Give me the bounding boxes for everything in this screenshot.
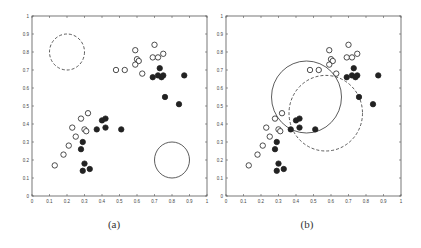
y-tick-label: 0.5 (23, 104, 30, 109)
filled-point (162, 94, 167, 99)
open-point (133, 62, 138, 67)
filled-point (355, 73, 360, 78)
open-point (264, 125, 269, 130)
y-tick-label: 0.5 (217, 104, 224, 109)
filled-point (161, 73, 166, 78)
filled-point (281, 166, 286, 171)
x-tick-label: 0.5 (310, 199, 317, 204)
open-point (327, 62, 332, 67)
y-tick-label: 0.2 (217, 158, 224, 163)
filled-point (103, 125, 108, 130)
open-point (355, 51, 360, 56)
x-tick-label: 0.4 (99, 199, 106, 204)
open-point (122, 67, 127, 72)
y-tick-label: 0.8 (217, 50, 224, 55)
x-tick-label: 0.6 (328, 199, 335, 204)
filled-point (272, 147, 277, 152)
open-point (113, 67, 118, 72)
filled-point (376, 73, 381, 78)
y-tick-label: 0.8 (23, 50, 30, 55)
open-point (278, 129, 283, 134)
y-tick-label: 0.6 (217, 86, 224, 91)
open-point (260, 143, 265, 148)
filled-point (103, 116, 108, 121)
open-point (161, 51, 166, 56)
open-point (70, 125, 75, 130)
open-point (246, 163, 251, 168)
filled-point (344, 75, 349, 80)
filled-point (274, 139, 279, 144)
y-tick-label: 0.6 (23, 86, 30, 91)
open-point (66, 143, 71, 148)
panel-a: 00.10.20.30.40.50.60.70.80.9100.10.20.30… (0, 0, 210, 248)
x-tick-label: 0.9 (380, 199, 387, 204)
open-point (344, 55, 349, 60)
filled-point (80, 168, 85, 173)
open-point (52, 163, 57, 168)
filled-point (94, 127, 99, 132)
x-tick-label: 0.7 (345, 199, 352, 204)
filled-point (82, 161, 87, 166)
x-tick-label: 0.5 (116, 199, 123, 204)
x-tick-label: 0 (31, 199, 34, 204)
solid-circle (272, 61, 342, 133)
y-tick-label: 0.9 (23, 32, 30, 37)
y-tick-label: 0.3 (23, 140, 30, 145)
open-point (140, 71, 145, 76)
filled-point (276, 161, 281, 166)
filled-point (150, 75, 155, 80)
open-point (78, 116, 83, 121)
scatter-plot-b: 00.10.20.30.40.50.60.70.80.9100.10.20.30… (194, 0, 404, 248)
dashed-circle (289, 75, 363, 151)
filled-point (351, 66, 356, 71)
y-tick-label: 0.4 (23, 122, 30, 127)
y-tick-label: 0.7 (217, 68, 224, 73)
open-point (307, 67, 312, 72)
y-tick-label: 1 (220, 14, 223, 19)
open-point (85, 111, 90, 116)
filled-point (370, 102, 375, 107)
x-tick-label: 0 (225, 199, 228, 204)
open-point (73, 134, 78, 139)
filled-point (87, 166, 92, 171)
filled-point (356, 94, 361, 99)
filled-point (119, 127, 124, 132)
solid-circle (155, 142, 190, 178)
open-point (272, 116, 277, 121)
x-tick-label: 0.6 (134, 199, 141, 204)
caption-b: (b) (287, 218, 327, 230)
filled-point (274, 168, 279, 173)
x-tick-label: 0.1 (240, 199, 247, 204)
x-tick-label: 0.3 (275, 199, 282, 204)
x-tick-label: 0.2 (258, 199, 265, 204)
x-tick-label: 0.8 (363, 199, 370, 204)
y-tick-label: 1 (26, 14, 29, 19)
filled-point (176, 102, 181, 107)
y-tick-label: 0 (26, 194, 29, 199)
open-point (150, 55, 155, 60)
open-point (316, 67, 321, 72)
y-tick-label: 0.2 (23, 158, 30, 163)
open-point (327, 48, 332, 53)
filled-point (182, 73, 187, 78)
x-tick-label: 0.3 (81, 199, 88, 204)
x-tick-label: 0.1 (46, 199, 53, 204)
open-point (61, 152, 66, 157)
panel-b: 00.10.20.30.40.50.60.70.80.9100.10.20.30… (194, 0, 404, 248)
x-tick-label: 0.2 (64, 199, 71, 204)
filled-point (78, 147, 83, 152)
open-point (334, 71, 339, 76)
open-point (152, 42, 157, 47)
x-tick-label: 0.4 (293, 199, 300, 204)
filled-point (288, 127, 293, 132)
open-point (349, 55, 354, 60)
open-point (279, 111, 284, 116)
open-point (84, 129, 89, 134)
y-tick-label: 0.3 (217, 140, 224, 145)
scatter-plot-a: 00.10.20.30.40.50.60.70.80.9100.10.20.30… (0, 0, 210, 248)
x-tick-label: 0.9 (186, 199, 193, 204)
y-tick-label: 0.1 (23, 176, 30, 181)
filled-point (157, 66, 162, 71)
x-tick-label: 0.8 (169, 199, 176, 204)
y-tick-label: 0 (220, 194, 223, 199)
